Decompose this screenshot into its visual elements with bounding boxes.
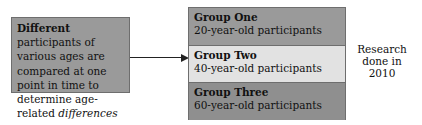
note-line-2: done in: [352, 55, 412, 67]
description-italic-tail: differences: [58, 107, 117, 119]
group-row-two: Group Two 40-year-old participants: [189, 46, 345, 83]
arrow-line: [130, 57, 181, 58]
description-bold-lead: Different: [17, 22, 70, 34]
group-row-one: Group One 20-year-old participants: [189, 8, 345, 46]
group-subtitle: 40-year-old participants: [194, 62, 340, 75]
group-title: Group One: [194, 11, 340, 24]
group-row-three: Group Three 60-year-old participants: [189, 83, 345, 120]
group-stack: Group One 20-year-old participants Group…: [188, 7, 346, 120]
research-date-note: Research done in 2010: [352, 43, 412, 79]
group-title: Group Three: [194, 86, 340, 99]
note-line-3: 2010: [352, 67, 412, 79]
group-subtitle: 20-year-old participants: [194, 24, 340, 37]
description-box: Different participants of various ages a…: [11, 17, 130, 93]
group-title: Group Two: [194, 49, 340, 62]
group-subtitle: 60-year-old participants: [194, 99, 340, 112]
note-line-1: Research: [352, 43, 412, 55]
